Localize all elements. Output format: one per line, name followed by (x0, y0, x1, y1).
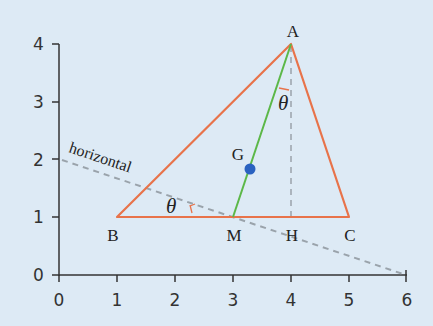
y-tick-0: 0 (33, 265, 44, 285)
triangle-ABC (117, 44, 349, 217)
angle-marker-top (279, 88, 289, 90)
theta-label-top: θ (278, 91, 288, 115)
x-tick-1: 1 (112, 290, 123, 310)
median-AM (233, 44, 291, 217)
x-tick-labels: 0 1 2 3 4 5 6 (54, 290, 413, 310)
label-G: G (232, 145, 244, 164)
x-tick-6: 6 (402, 290, 413, 310)
x-tick-5: 5 (344, 290, 355, 310)
y-tick-2: 2 (33, 150, 44, 170)
y-tick-labels: 4 3 2 1 0 (33, 34, 44, 285)
label-H: H (286, 226, 298, 245)
x-tick-4: 4 (286, 290, 297, 310)
label-C: C (344, 226, 355, 245)
horizontal-label: horizontal (67, 139, 134, 176)
x-tick-0: 0 (54, 290, 65, 310)
triangle-diagram: 4 3 2 1 0 0 1 2 3 4 5 6 A B C M H G θ θ … (0, 0, 433, 326)
y-tick-1: 1 (33, 207, 44, 227)
centroid-G (245, 164, 256, 175)
y-tick-3: 3 (33, 92, 44, 112)
label-B: B (107, 226, 118, 245)
label-A: A (287, 22, 300, 41)
x-tick-3: 3 (228, 290, 239, 310)
x-tick-2: 2 (170, 290, 181, 310)
label-M: M (226, 226, 241, 245)
y-tick-4: 4 (33, 34, 44, 54)
theta-label-bottom: θ (166, 194, 176, 218)
